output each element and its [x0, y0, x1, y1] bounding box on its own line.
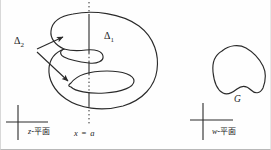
region-boundary-outer	[49, 12, 158, 109]
label-delta-2: Δ2	[14, 36, 24, 49]
region-lobe-lower	[69, 71, 134, 93]
arrow-to-upper-lobe	[37, 37, 63, 49]
image-boundary-g	[213, 46, 265, 94]
figure-canvas: Δ2 Δ1 z-平面 w-平面 x = a G	[0, 0, 271, 150]
label-z-plane: z-平面	[28, 128, 50, 136]
label-line-equation: x = a	[74, 129, 95, 138]
region-lobe-upper	[61, 49, 103, 63]
label-delta-1: Δ1	[104, 31, 114, 44]
label-w-plane: w-平面	[212, 128, 236, 136]
label-region-g: G	[234, 95, 241, 105]
